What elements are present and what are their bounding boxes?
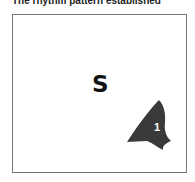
dark-shape-icon: 1 [0,0,195,182]
shape-label: 1 [154,121,160,133]
